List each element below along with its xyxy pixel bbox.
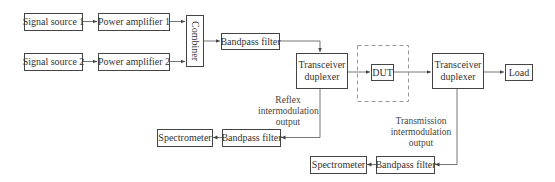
load-block: Load [505, 64, 533, 81]
reflex-label-line1: Reflex [258, 95, 318, 106]
transmission-label-line2: intermodulation [388, 127, 454, 138]
transmission-label-line3: output [388, 138, 454, 149]
duplexer-left-line2: duplexer [305, 71, 340, 83]
combiner-label: Combiner [189, 21, 201, 61]
spectrometer-trans-block: Spectrometer [310, 156, 367, 174]
duplexer-right-line1: Transceiver [435, 59, 482, 71]
transceiver-duplexer-right-block: Transceiver duplexer [432, 53, 484, 89]
power-amplifier-1-block: Power amplifier 1 [98, 13, 170, 31]
spectrometer-reflex-block: Spectrometer [157, 129, 213, 147]
bandpass-filter-reflex-block: Bandpass filter [222, 129, 281, 147]
combiner-block: Combiner [186, 15, 204, 67]
dut-block: DUT [371, 64, 394, 81]
reflex-output-label: Reflex intermodulation output [258, 95, 318, 128]
bandpass-filter-trans-block: Bandpass filter [376, 156, 435, 174]
duplexer-right-line2: duplexer [441, 71, 476, 83]
duplexer-left-line1: Transceiver [299, 59, 346, 71]
power-amplifier-2-block: Power amplifier 2 [98, 53, 170, 71]
reflex-label-line3: output [258, 117, 318, 128]
transmission-label-line1: Transmission [388, 116, 454, 127]
transmission-output-label: Transmission intermodulation output [388, 116, 454, 149]
bandpass-filter-tx-block: Bandpass filter [221, 33, 280, 50]
signal-source-2-block: Signal source 2 [24, 53, 83, 71]
transceiver-duplexer-left-block: Transceiver duplexer [296, 53, 348, 89]
signal-source-1-block: Signal source 1 [24, 13, 83, 31]
reflex-label-line2: intermodulation [258, 106, 318, 117]
